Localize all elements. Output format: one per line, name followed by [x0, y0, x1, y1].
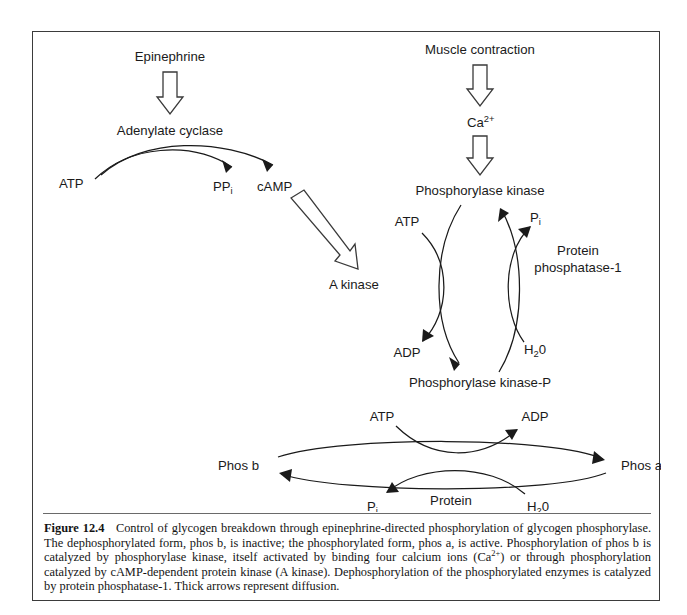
label-phos-a-prefix: Phos — [621, 458, 655, 473]
label-ppi: PPi — [213, 179, 233, 196]
label-adp-phos-cycle: ADP — [521, 409, 548, 424]
svg-text:Ca2+: Ca2+ — [467, 113, 495, 130]
thick-arrow-muscle-to-calcium — [467, 65, 493, 106]
label-atp-kinase-cycle: ATP — [395, 214, 420, 229]
label-calcium-sup: 2+ — [484, 113, 495, 124]
pathway-diagram: Epinephrine Adenylate cyclase ATP — [33, 32, 661, 512]
arrow-water-to-pi-phos-cycle — [386, 471, 525, 495]
label-calcium-ion: Ca2+ — [467, 113, 495, 130]
arrow-atp-to-adp-phos-cycle — [396, 426, 518, 453]
label-adenylate-cyclase: Adenylate cyclase — [117, 123, 223, 138]
label-water-o: 0 — [539, 342, 546, 357]
label-calcium-main: Ca — [467, 115, 485, 130]
figure-caption: Figure 12.4 Control of glycogen breakdow… — [44, 521, 651, 594]
label-muscle-contraction: Muscle contraction — [425, 42, 535, 57]
thick-arrow-camp-to-a-kinase — [291, 190, 358, 269]
svg-text:H20: H20 — [527, 499, 549, 512]
label-water-kinase-cycle: H20 — [524, 342, 546, 359]
label-water-phos-o: 0 — [542, 499, 549, 512]
svg-text:PPi: PPi — [213, 179, 233, 196]
label-atp-cyclase: ATP — [59, 176, 84, 191]
label-phos-b-letter: b — [252, 458, 259, 473]
arrow-phos-b-to-phos-a — [278, 441, 605, 464]
label-pi-kinase-cycle: Pi — [530, 210, 541, 227]
label-ppi-main: PP — [213, 179, 231, 194]
svg-text:H20: H20 — [524, 342, 546, 359]
label-pi-phos-main: P — [367, 499, 376, 512]
label-epinephrine: Epinephrine — [135, 49, 205, 64]
label-adp-kinase-cycle: ADP — [393, 345, 420, 360]
label-phosphorylase-kinase-p: Phosphorylase kinase-P — [409, 375, 551, 390]
label-protein-phosphatase-1-phos-cycle-line2: phosphatase-1 — [407, 510, 494, 512]
label-phos-b-prefix: Phos — [218, 458, 252, 473]
label-phos-a-letter: a — [655, 458, 661, 473]
label-atp-phos-cycle: ATP — [370, 409, 395, 424]
caption-superscript: 2+ — [491, 549, 500, 558]
label-phosphorylase-kinase: Phosphorylase kinase — [415, 183, 544, 198]
label-pi-phos-cycle: Pi — [367, 499, 378, 512]
label-pi-sub: i — [539, 216, 541, 227]
label-a-kinase: A kinase — [329, 277, 379, 292]
thick-arrow-epinephrine-to-adenylate-cyclase — [157, 72, 183, 114]
label-pi-phos-sub: i — [376, 505, 378, 512]
label-phos-a: Phos a — [621, 458, 661, 473]
label-protein-phosphatase-1-kinase-cycle-line2: phosphatase-1 — [534, 260, 621, 275]
arrow-atp-to-adp-kinase-cycle — [422, 233, 444, 342]
figure-root: Epinephrine Adenylate cyclase ATP — [0, 0, 687, 615]
label-protein-phosphatase-1-kinase-cycle-line1: Protein — [557, 243, 599, 258]
thick-arrow-calcium-to-phosphorylase-kinase — [467, 136, 493, 175]
arrow-kinase-forward-bow — [439, 205, 461, 371]
figure-number: Figure 12.4 — [44, 521, 104, 535]
label-protein-phosphatase-1-phos-cycle-line1: Protein — [430, 493, 472, 508]
caption-divider — [43, 513, 651, 514]
arrow-phos-a-to-phos-b — [279, 469, 606, 489]
diagram-area: Epinephrine Adenylate cyclase ATP — [33, 32, 661, 512]
label-water-h: H — [524, 342, 534, 357]
label-water-phos-cycle: H20 — [527, 499, 549, 512]
arrow-atp-to-camp — [101, 146, 273, 175]
label-pi-main: P — [530, 210, 539, 225]
label-water-phos-h: H — [527, 499, 537, 512]
figure-frame: Epinephrine Adenylate cyclase ATP — [32, 31, 660, 601]
svg-text:Pi: Pi — [530, 210, 541, 227]
label-phos-b: Phos b — [218, 458, 259, 473]
label-ppi-sub: i — [231, 185, 233, 196]
svg-text:Pi: Pi — [367, 499, 378, 512]
label-camp: cAMP — [257, 179, 292, 194]
